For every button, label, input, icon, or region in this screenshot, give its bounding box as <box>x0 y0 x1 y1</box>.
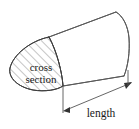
cross-section-label-line1: cross <box>30 61 53 73</box>
length-dimension-line <box>66 83 131 110</box>
geometry-figure: cross section length <box>0 0 139 129</box>
cross-section-label-line2: section <box>25 73 57 85</box>
arrow-left-icon <box>63 107 70 113</box>
length-label: length <box>87 107 116 120</box>
figure-canvas: cross section length <box>0 0 139 129</box>
